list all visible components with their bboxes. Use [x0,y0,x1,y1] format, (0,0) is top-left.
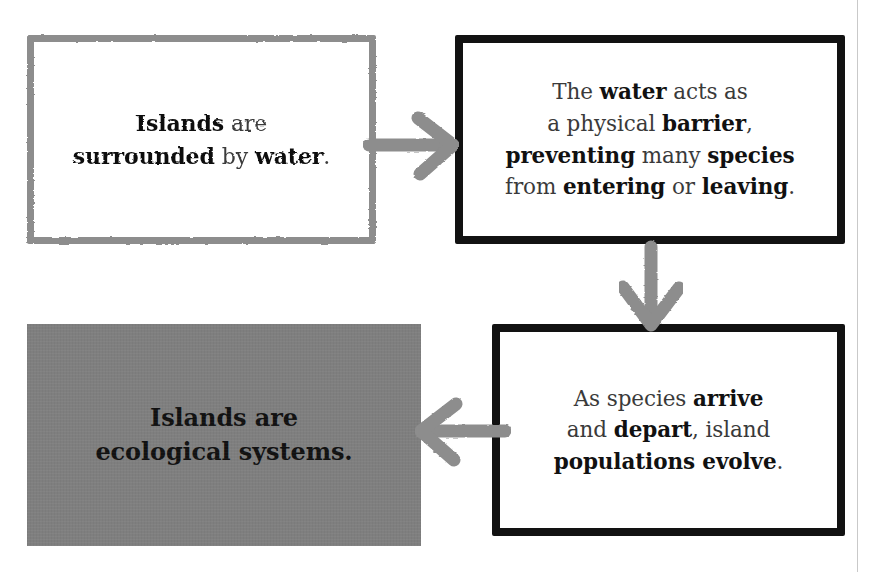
page-edge-rule [857,0,858,572]
flow-node-premise-text: Islands aresurrounded by water. [63,107,340,173]
arrow-barrier-to-evolve-icon [614,243,688,333]
flow-node-evolve: As species arriveand depart, islandpopul… [492,324,845,536]
flow-node-evolve-text: As species arriveand depart, islandpopul… [544,383,794,478]
flow-node-premise: Islands aresurrounded by water. [27,35,376,244]
flow-node-barrier-text: The water acts asa physical barrier,prev… [495,76,805,202]
diagram-canvas: Islands aresurrounded by water. The wate… [0,0,871,572]
flow-node-conclusion-text: Islands areecological systems. [85,401,362,469]
flow-node-conclusion: Islands areecological systems. [27,324,421,546]
flow-node-barrier: The water acts asa physical barrier,prev… [455,35,845,244]
